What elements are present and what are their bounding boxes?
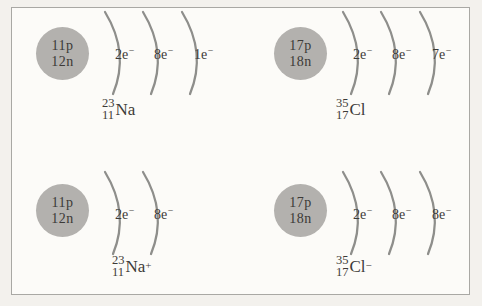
electron-count-text: 2e (353, 207, 366, 222)
nucleus: 17p 18n (274, 27, 327, 80)
neutron-count: 18n (289, 211, 312, 227)
electron-charge-sign: − (406, 205, 412, 216)
chlorine-atom-diagram: 17p 18n 2e− 8e− 7e− 35 17 Cl (238, 0, 482, 150)
nucleus: 17p 18n (274, 184, 327, 237)
neutron-count: 12n (51, 211, 74, 227)
electron-count-text: 2e (115, 207, 128, 222)
atomic-number: 11 (112, 266, 125, 278)
isotope-label: 23 11 Na + (112, 254, 152, 278)
electron-charge-sign: − (129, 205, 135, 216)
electron-count-text: 8e (432, 207, 445, 222)
shell3-electron-count: 8e− (432, 204, 451, 223)
electron-charge-sign: − (446, 205, 452, 216)
nucleus: 11p 12n (36, 27, 89, 80)
shell1-electron-count: 2e− (115, 204, 134, 223)
element-symbol: Na (116, 100, 136, 120)
isotope-label: 23 11 Na (102, 97, 135, 121)
isotope-label: 35 17 Cl (336, 97, 366, 121)
shell2-electron-count: 8e− (392, 204, 411, 223)
electron-charge-sign: − (406, 45, 412, 56)
electron-charge-sign: − (168, 45, 174, 56)
ion-charge: − (366, 259, 372, 271)
shell2-electron-count: 8e− (392, 44, 411, 63)
electron-charge-sign: − (168, 205, 174, 216)
electron-charge-sign: − (208, 45, 214, 56)
shell2-electron-count: 8e− (154, 204, 173, 223)
proton-count: 11p (52, 38, 74, 54)
shell3-electron-count: 7e− (432, 44, 451, 63)
electron-count-text: 8e (392, 47, 405, 62)
chloride-ion-diagram: 17p 18n 2e− 8e− 8e− 35 17 Cl − (238, 157, 482, 306)
bohr-diagram-figure: 11p 12n 2e− 8e− 1e− 23 11 Na 17p 18n 2e−… (0, 0, 482, 306)
electron-count-text: 7e (432, 47, 445, 62)
atomic-number: 11 (102, 109, 115, 121)
electron-charge-sign: − (446, 45, 452, 56)
electron-charge-sign: − (129, 45, 135, 56)
proton-count: 17p (289, 195, 312, 211)
electron-count-text: 2e (115, 47, 128, 62)
ion-charge: + (145, 259, 151, 271)
shell3-electron-count: 1e− (194, 44, 213, 63)
sodium-atom-diagram: 11p 12n 2e− 8e− 1e− 23 11 Na (0, 0, 244, 150)
proton-count: 11p (52, 195, 74, 211)
shell1-electron-count: 2e− (353, 44, 372, 63)
electron-charge-sign: − (367, 205, 373, 216)
neutron-count: 12n (51, 54, 74, 70)
electron-count-text: 8e (392, 207, 405, 222)
proton-count: 17p (289, 38, 312, 54)
shell2-electron-count: 8e− (154, 44, 173, 63)
electron-count-text: 2e (353, 47, 366, 62)
nucleus: 11p 12n (36, 184, 89, 237)
electron-count-text: 1e (194, 47, 207, 62)
shell1-electron-count: 2e− (115, 44, 134, 63)
element-symbol: Na (126, 257, 146, 277)
shell1-electron-count: 2e− (353, 204, 372, 223)
electron-count-text: 8e (154, 47, 167, 62)
sodium-ion-diagram: 11p 12n 2e− 8e− 23 11 Na + (0, 157, 244, 306)
electron-charge-sign: − (367, 45, 373, 56)
neutron-count: 18n (289, 54, 312, 70)
element-symbol: Cl (350, 257, 366, 277)
atomic-number: 17 (336, 109, 349, 121)
atomic-number: 17 (336, 266, 349, 278)
electron-count-text: 8e (154, 207, 167, 222)
isotope-label: 35 17 Cl − (336, 254, 372, 278)
element-symbol: Cl (350, 100, 366, 120)
